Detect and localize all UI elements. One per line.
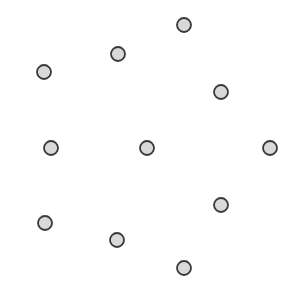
scatter-plot-svg (0, 0, 292, 292)
scatter-plot-canvas (0, 0, 292, 292)
scatter-point-marker[interactable] (37, 65, 51, 79)
scatter-point-marker[interactable] (214, 198, 228, 212)
scatter-point-marker[interactable] (111, 47, 125, 61)
scatter-point-marker[interactable] (110, 233, 124, 247)
scatter-point-marker[interactable] (263, 141, 277, 155)
scatter-point-marker[interactable] (177, 261, 191, 275)
scatter-point-marker[interactable] (140, 141, 154, 155)
scatter-point-marker[interactable] (214, 85, 228, 99)
scatter-point-marker[interactable] (44, 141, 58, 155)
scatter-point-marker[interactable] (38, 216, 52, 230)
scatter-point-marker[interactable] (177, 18, 191, 32)
